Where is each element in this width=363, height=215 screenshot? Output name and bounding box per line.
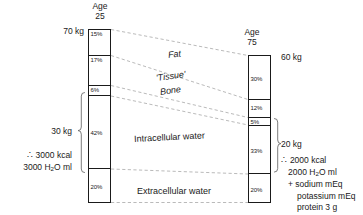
- brace-left: [78, 93, 84, 173]
- water-unit-right: O ml: [319, 167, 337, 177]
- body-composition-figure: Age 25 Age 75 70 kg 60 kg 15% 17% 6% 42%…: [0, 0, 363, 215]
- age-value-left: 25: [78, 12, 122, 22]
- annotation-sodium-right: + sodium mEq: [281, 179, 356, 191]
- segment-percent-intracellular-water-right: 33%: [251, 148, 263, 155]
- composition-bar-left: 15% 17% 6% 42% 20%: [88, 29, 111, 203]
- segment-percent-tissue-right: 12%: [251, 105, 263, 112]
- segment-extracellular-water-left: 20%: [89, 169, 110, 204]
- segment-fat-right: 30%: [249, 56, 270, 100]
- segment-intracellular-water-left: 42%: [89, 96, 110, 169]
- annotation-potassium-right: potassium mEq: [281, 191, 356, 203]
- weight-label-left: 70 kg: [22, 26, 84, 36]
- segment-tissue-right: 12%: [249, 100, 270, 118]
- segment-percent-extracellular-water-left: 20%: [91, 184, 103, 191]
- segment-percent-tissue-left: 17%: [91, 57, 103, 64]
- segment-percent-intracellular-water-left: 42%: [91, 130, 103, 137]
- connector-bone-icw: [111, 96, 248, 125]
- annotation-water-left: 3000 H2O ml: [2, 162, 72, 175]
- segment-intracellular-water-right: 33%: [249, 126, 270, 175]
- segment-percent-fat-left: 15%: [91, 31, 103, 38]
- therefore-symbol-right: ∴: [281, 155, 288, 165]
- column-header-left: Age 25: [78, 2, 122, 21]
- connector-icw-ecw: [111, 169, 248, 174]
- segment-tissue-left: 17%: [89, 56, 110, 86]
- annotation-kcal-right: ∴ 2000 kcal: [281, 155, 356, 167]
- age-value-right: 75: [230, 38, 274, 48]
- segment-bone-right: 5%: [249, 118, 270, 125]
- segment-extracellular-water-right: 20%: [249, 174, 270, 204]
- water-value-right: 2000 H: [288, 167, 315, 177]
- column-header-right: Age 75: [230, 28, 274, 47]
- kcal-value-left: 3000 kcal: [36, 150, 72, 160]
- segment-percent-extracellular-water-right: 20%: [251, 187, 263, 194]
- brace-mass-label-left: 30 kg: [10, 126, 72, 138]
- annotation-block-right: ∴ 2000 kcal 2000 H2O ml + sodium mEq pot…: [281, 155, 356, 214]
- segment-bone-left: 6%: [89, 86, 110, 96]
- segment-fat-left: 15%: [89, 30, 110, 56]
- weight-label-right: 60 kg: [281, 52, 341, 62]
- segment-percent-fat-right: 30%: [251, 76, 263, 83]
- annotation-protein-right: protein 3 g: [281, 202, 356, 214]
- segment-percent-bone-left: 6%: [91, 87, 99, 94]
- kcal-value-right: 2000 kcal: [290, 155, 326, 165]
- water-unit-left: O ml: [54, 162, 72, 172]
- brace-right: [275, 119, 281, 173]
- annotation-block-left: ∴ 3000 kcal 3000 H2O ml: [2, 150, 72, 174]
- water-value-left: 3000 H: [23, 162, 50, 172]
- annotation-kcal-left: ∴ 3000 kcal: [2, 150, 72, 162]
- compartment-label-fat: Fat: [167, 48, 181, 60]
- composition-bar-right: 30% 12% 5% 33% 20%: [248, 55, 271, 203]
- compartment-label-extracellular-water: Extracellular water: [137, 186, 211, 196]
- annotation-water-right: 2000 H2O ml: [281, 167, 356, 180]
- therefore-symbol-left: ∴: [27, 150, 34, 160]
- brace-mass-label-right: 20 kg: [281, 139, 302, 151]
